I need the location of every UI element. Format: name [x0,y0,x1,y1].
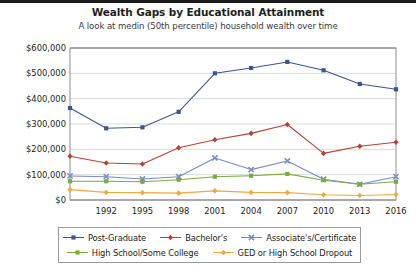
data-point-marker [394,87,398,91]
data-point-marker [321,192,326,198]
legend-item-associate-s-certificate[interactable]: Associate's/Certificate [241,233,356,243]
data-point-marker [357,143,362,149]
y-tick-label: $100,000 [0,170,66,180]
legend-item-high-school-some-college[interactable]: High School/Some College [67,248,199,258]
legend-marker-icon [213,248,234,257]
data-point-marker [285,172,289,176]
data-point-marker [68,106,72,110]
data-point-marker [285,190,290,196]
data-point-marker [140,180,144,184]
legend-label: High School/Some College [92,248,199,258]
legend-label: GED or High School Dropout [238,248,353,258]
data-point-marker [393,192,398,198]
data-point-marker [321,178,325,182]
data-point-marker [212,188,217,194]
data-point-marker [358,82,362,86]
data-point-marker [71,235,75,239]
data-point-marker [249,190,254,196]
data-point-marker [220,250,225,256]
data-point-marker [67,153,72,159]
series-line [70,62,396,128]
legend-label: Post-Graduate [88,233,146,243]
legend-label: Associate's/Certificate [266,233,356,243]
y-tick-label: $400,000 [0,94,66,104]
data-point-marker [213,71,217,75]
data-point-marker [249,235,254,240]
data-point-marker [104,190,109,196]
y-tick-label: $300,000 [0,119,66,129]
chart-legend: Post-GraduateBachelor'sAssociate's/Certi… [58,227,361,263]
series-3 [68,172,398,187]
series-4 [67,187,398,198]
data-point-marker [104,126,108,130]
series-line [70,158,396,184]
data-point-marker [168,235,173,241]
data-point-marker [177,178,181,182]
y-tick-label: $0 [0,195,66,205]
data-point-marker [177,110,181,114]
data-point-marker [393,139,398,145]
data-point-marker [321,68,325,72]
data-point-marker [67,187,72,193]
y-tick-label: $200,000 [0,144,66,154]
y-tick-label: $500,000 [0,68,66,78]
data-point-marker [213,175,217,179]
data-point-marker [249,66,253,70]
legend-row: High School/Some CollegeGED or High Scho… [59,245,360,260]
legend-marker-icon [67,248,88,257]
series-line [70,125,396,165]
series-0 [68,60,398,131]
data-point-marker [249,131,254,137]
data-point-marker [104,179,108,183]
legend-label: Bachelor's [185,233,227,243]
legend-marker-icon [241,233,262,242]
y-tick-label: $600,000 [0,43,66,53]
data-point-marker [75,250,79,254]
data-point-marker [104,160,109,166]
data-point-marker [140,161,145,167]
chart-card: Wealth Gaps by Educational Attainment A … [0,3,416,273]
legend-marker-icon [63,233,84,242]
data-point-marker [176,145,181,151]
data-point-marker [212,137,217,143]
legend-row: Post-GraduateBachelor'sAssociate's/Certi… [59,230,360,245]
series-line [70,174,396,184]
legend-item-ged-or-high-school-dropout[interactable]: GED or High School Dropout [213,248,353,258]
data-point-marker [285,60,289,64]
legend-marker-icon [160,233,181,242]
x-tick-label: 2016 [374,206,416,216]
series-2 [67,155,398,187]
data-point-marker [357,193,362,199]
legend-item-bachelor-s[interactable]: Bachelor's [160,233,227,243]
data-point-marker [140,125,144,129]
data-point-marker [358,182,362,186]
data-point-marker [140,190,145,196]
series-line [70,190,396,196]
data-point-marker [212,155,217,160]
data-point-marker [249,174,253,178]
legend-item-post-graduate[interactable]: Post-Graduate [63,233,146,243]
data-point-marker [176,190,181,196]
data-point-marker [68,179,72,183]
data-point-marker [394,180,398,184]
